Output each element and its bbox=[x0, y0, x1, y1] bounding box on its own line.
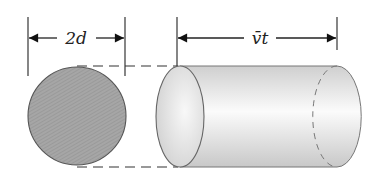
cross-section-circle bbox=[28, 67, 126, 165]
cylinder bbox=[156, 66, 361, 167]
diameter-label: 2d bbox=[64, 28, 87, 48]
cylinder-body bbox=[180, 66, 361, 167]
cylinder-front-cap bbox=[156, 66, 204, 167]
length-label: v̄t bbox=[252, 28, 269, 48]
collision-cylinder-diagram: 2d v̄t bbox=[0, 0, 386, 178]
